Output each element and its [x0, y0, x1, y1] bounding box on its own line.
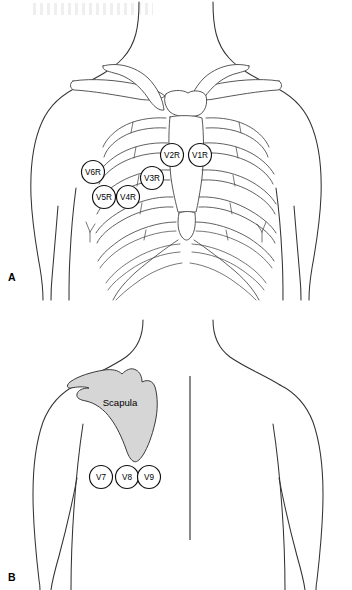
costal-margin-right	[194, 240, 259, 300]
shoulder-right-outline	[272, 86, 321, 300]
electrode-v4r[interactable]: V4R	[117, 186, 140, 209]
back-shoulder-right-outline	[280, 385, 323, 590]
rib-4-right-lower	[202, 180, 275, 214]
electrode-v2r-label: V2R	[164, 151, 180, 160]
rib-6-right-cartilage	[226, 230, 228, 240]
back-shoulder-left-outline	[33, 385, 76, 590]
torso-left-side	[69, 188, 76, 300]
scapula-shape	[67, 369, 157, 462]
anatomy-illustration: V1R V2R V3R V4R V5R	[0, 0, 352, 590]
rib-7-right-lower	[192, 252, 264, 290]
figure-root: V1R V2R V3R V4R V5R	[0, 0, 352, 590]
back-torso-left-side	[71, 424, 83, 590]
rib-5-right-lower	[199, 207, 275, 243]
electrode-v3r[interactable]: V3R	[141, 167, 164, 190]
rib-2-left-cartilage	[131, 122, 133, 133]
electrode-v5r[interactable]: V5R	[93, 186, 116, 209]
arm-crease-left	[51, 206, 58, 300]
rib-3-right	[204, 143, 274, 174]
electrode-v5r-label: V5R	[96, 193, 112, 202]
back-arm-crease-right	[279, 478, 305, 590]
electrode-v4r-label: V4R	[120, 193, 136, 202]
rib-4-right	[202, 170, 276, 204]
panel-b-letter: B	[8, 571, 16, 583]
electrode-v9-label: V9	[144, 473, 154, 482]
rib-5-left-cartilage	[140, 203, 142, 214]
electrode-v7-label: V7	[96, 473, 106, 482]
electrode-v3r-label: V3R	[144, 174, 160, 183]
rib-5-left-lower	[97, 207, 173, 243]
electrode-v6r-label: V6R	[85, 168, 101, 177]
electrode-v2r[interactable]: V2R	[161, 144, 184, 167]
shoulder-left-outline	[31, 86, 80, 300]
electrode-v1r-label: V1R	[192, 151, 208, 160]
panel-b-posterior-back: Scapula V7 V8 V9	[33, 320, 323, 590]
rib-5-right	[199, 197, 276, 233]
rib-6-left-cartilage	[144, 230, 146, 240]
rib-7-left	[106, 244, 180, 283]
back-neck-right-outline	[213, 320, 280, 385]
rib-7-right	[192, 244, 266, 283]
torso-right-side	[276, 188, 283, 300]
rib-6-left	[98, 222, 176, 261]
electrode-v9[interactable]: V9	[138, 466, 161, 489]
rib-2-right-cartilage	[239, 122, 241, 133]
electrode-v1r[interactable]: V1R	[189, 144, 212, 167]
sternum-xiphoid	[178, 212, 195, 241]
panel-a-anterior-chest: V1R V2R V3R V4R V5R	[31, 2, 321, 300]
axilla-mark-left	[86, 222, 95, 242]
back-arm-crease-left	[51, 478, 77, 590]
arm-crease-right	[294, 206, 301, 300]
electrode-v8-label: V8	[122, 473, 132, 482]
axilla-mark-right	[257, 222, 266, 242]
sternum-manubrium	[165, 90, 207, 116]
rib-3-right-lower	[204, 153, 273, 184]
scapula-label: Scapula	[103, 397, 138, 408]
electrode-v7[interactable]: V7	[90, 466, 113, 489]
rib-7-left-lower	[108, 252, 180, 290]
electrode-v6r[interactable]: V6R	[82, 161, 105, 184]
rib-5-right-cartilage	[230, 203, 232, 214]
costal-margin-left	[113, 240, 178, 300]
back-torso-right-side	[273, 424, 285, 590]
electrode-v8[interactable]: V8	[116, 466, 139, 489]
panel-a-letter: A	[8, 271, 16, 283]
panel-b-electrodes: V7 V8 V9	[90, 466, 161, 489]
